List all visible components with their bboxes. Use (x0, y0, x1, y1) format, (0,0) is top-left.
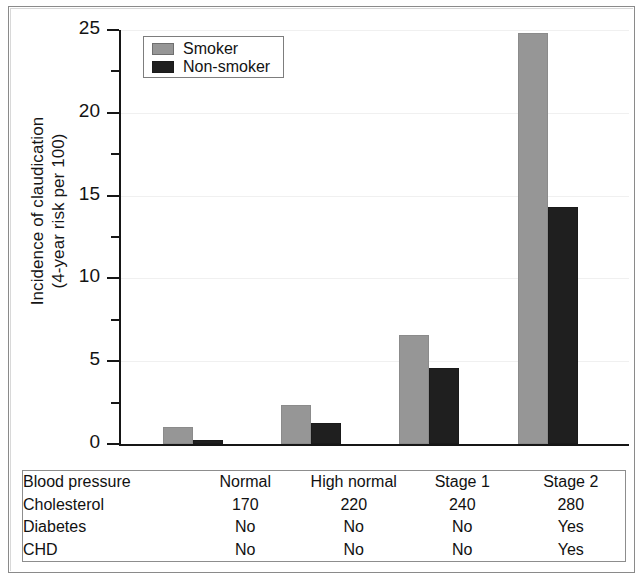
y-tick-minor (111, 153, 119, 155)
chart-legend: Smoker Non-smoker (143, 36, 284, 78)
legend-label-non-smoker: Non-smoker (183, 58, 270, 76)
gridline (121, 196, 629, 197)
y-tick-major (107, 29, 119, 31)
table-cell: Stage 1 (408, 471, 517, 494)
table-cell: 170 (191, 494, 300, 517)
y-tick-minor (111, 70, 119, 72)
y-axis-line (119, 30, 121, 446)
legend-item-smoker: Smoker (152, 40, 283, 58)
table-cell: 280 (517, 494, 626, 517)
table-cell: No (408, 539, 517, 562)
y-tick-major (107, 112, 119, 114)
y-tick-label: 10 (40, 265, 100, 287)
table-cell: No (191, 516, 300, 539)
table-cell: 240 (408, 494, 517, 517)
table-row-label: Blood pressure (23, 471, 191, 494)
bar-non-smoker (429, 368, 459, 444)
y-tick-minor (111, 236, 119, 238)
y-tick-label: 5 (40, 348, 100, 370)
x-axis-line (119, 444, 629, 446)
table-cell: Normal (191, 471, 300, 494)
table-row: Cholesterol170220240280 (23, 494, 625, 517)
table-row: CHDNoNoNoYes (23, 539, 625, 562)
bar-non-smoker (311, 423, 341, 444)
gridline (121, 30, 629, 31)
table-cell: No (300, 516, 409, 539)
bar-smoker (163, 427, 193, 444)
table-row: Blood pressureNormalHigh normalStage 1St… (23, 471, 625, 494)
bar-smoker (281, 405, 311, 444)
y-tick-major (107, 277, 119, 279)
table-cell: 220 (300, 494, 409, 517)
table-cell: No (408, 516, 517, 539)
bar-smoker (399, 335, 429, 444)
bar-non-smoker (548, 207, 578, 444)
table-cell: Yes (517, 516, 626, 539)
y-tick-label: 0 (40, 431, 100, 453)
y-tick-major (107, 360, 119, 362)
bar-smoker (518, 33, 548, 444)
y-tick-label: 25 (40, 17, 100, 39)
chart-plot-area: Incidence of claudication (4-year risk p… (0, 0, 644, 466)
figure-panel: Incidence of claudication (4-year risk p… (0, 0, 644, 582)
legend-item-non-smoker: Non-smoker (152, 58, 283, 76)
y-tick-major (107, 443, 119, 445)
legend-swatch-non-smoker-icon (152, 61, 174, 73)
table-row-label: CHD (23, 539, 191, 562)
y-tick-label: 15 (40, 183, 100, 205)
y-tick-minor (111, 319, 119, 321)
table-cell: Stage 2 (517, 471, 626, 494)
legend-swatch-smoker-icon (152, 43, 174, 55)
parameters-table: Blood pressureNormalHigh normalStage 1St… (22, 470, 626, 562)
table-cell: No (300, 539, 409, 562)
y-tick-major (107, 195, 119, 197)
table-cell: Yes (517, 539, 626, 562)
parameters-table-grid: Blood pressureNormalHigh normalStage 1St… (23, 471, 625, 561)
y-tick-minor (111, 402, 119, 404)
table-row-label: Diabetes (23, 516, 191, 539)
table-row-label: Cholesterol (23, 494, 191, 517)
table-cell: No (191, 539, 300, 562)
y-tick-label: 20 (40, 100, 100, 122)
table-cell: High normal (300, 471, 409, 494)
gridline (121, 113, 629, 114)
table-row: DiabetesNoNoNoYes (23, 516, 625, 539)
legend-label-smoker: Smoker (183, 40, 238, 58)
